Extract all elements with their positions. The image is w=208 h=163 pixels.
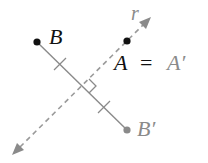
label-a-prime: A′ [167, 52, 185, 74]
label-b-prime: B′ [137, 118, 155, 140]
arrowhead-top-icon [139, 17, 151, 29]
point-a [123, 37, 130, 44]
label-equals: = [140, 52, 152, 74]
label-r: r [131, 2, 139, 24]
point-b-prime [123, 126, 130, 133]
point-b [33, 38, 40, 45]
right-angle-mark-icon [89, 79, 96, 93]
reflection-diagram [0, 0, 208, 163]
label-a: A [114, 52, 127, 74]
label-b: B [49, 26, 62, 48]
